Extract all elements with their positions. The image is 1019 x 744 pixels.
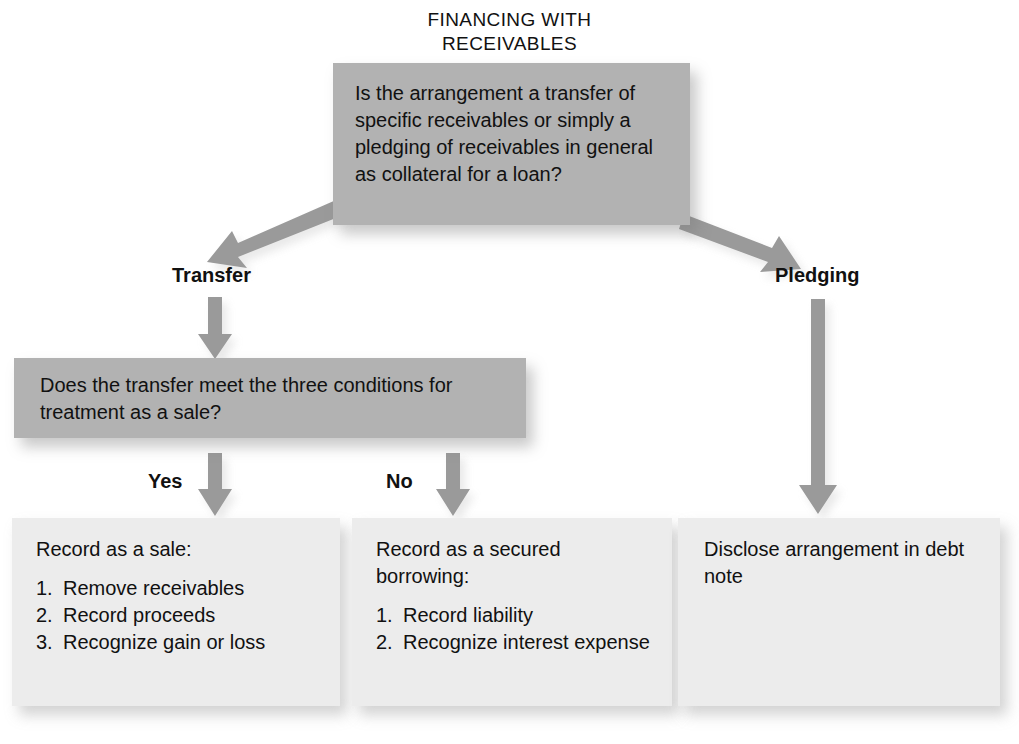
edge-label-yes: Yes <box>148 470 182 493</box>
list-item: 2. Record proceeds <box>36 602 326 629</box>
result-box-record-as-sale: Record as a sale: 1. Remove receivables … <box>12 518 340 706</box>
result-box-secured-borrowing-inner: Record as a secured borrowing: 1. Record… <box>376 536 658 694</box>
result-box-secured-borrowing: Record as a secured borrowing: 1. Record… <box>352 518 672 706</box>
edge-label-pledging: Pledging <box>775 264 859 287</box>
spacer <box>376 592 658 602</box>
edge-label-transfer: Transfer <box>172 264 251 287</box>
result-box-disclose-arrangement: Disclose arrangement in debt note <box>678 518 1000 706</box>
arrow-yes-down <box>198 453 232 516</box>
page-title: FINANCING WITH RECEIVABLES <box>0 8 1019 56</box>
decision-box-sale-conditions-inner: Does the transfer meet the three conditi… <box>40 372 510 428</box>
list-item-number: 2. <box>376 629 393 656</box>
arrow-no-down <box>436 453 470 516</box>
list-item: 1. Remove receivables <box>36 575 326 602</box>
arrow-pledging-down <box>799 299 837 514</box>
list-item-number: 1. <box>376 602 393 629</box>
list-item: 1. Record liability <box>376 602 658 629</box>
list-item-label: Recognize interest expense <box>403 631 650 653</box>
list-item-label: Recognize gain or loss <box>63 631 265 653</box>
arrow-transfer-down <box>198 297 232 359</box>
flowchart-canvas: FINANCING WITH RECEIVABLES <box>0 0 1019 744</box>
decision-box-arrangement-type-inner: Is the arrangement a transfer of specifi… <box>355 80 674 213</box>
edge-label-no: No <box>386 470 413 493</box>
arrow-to-transfer <box>207 200 341 268</box>
list-item-label: Remove receivables <box>63 577 244 599</box>
result-box-secured-borrowing-heading: Record as a secured borrowing: <box>376 536 658 590</box>
result-box-record-as-sale-heading: Record as a sale: <box>36 536 326 563</box>
result-box-record-as-sale-list: 1. Remove receivables 2. Record proceeds… <box>36 575 326 656</box>
list-item-number: 2. <box>36 602 53 629</box>
page-title-line-1: FINANCING WITH <box>0 8 1019 32</box>
page-title-line-2: RECEIVABLES <box>0 32 1019 56</box>
list-item: 3. Recognize gain or loss <box>36 629 326 656</box>
list-item-label: Record proceeds <box>63 604 215 626</box>
spacer <box>36 565 326 575</box>
result-box-disclose-arrangement-heading: Disclose arrangement in debt note <box>704 536 986 590</box>
result-box-record-as-sale-inner: Record as a sale: 1. Remove receivables … <box>36 536 326 694</box>
result-box-secured-borrowing-list: 1. Record liability 2. Recognize interes… <box>376 602 658 656</box>
result-box-disclose-arrangement-inner: Disclose arrangement in debt note <box>704 536 986 694</box>
decision-box-sale-conditions-text: Does the transfer meet the three conditi… <box>40 372 510 426</box>
list-item: 2. Recognize interest expense <box>376 629 658 656</box>
decision-box-arrangement-type: Is the arrangement a transfer of specifi… <box>333 63 690 225</box>
list-item-number: 1. <box>36 575 53 602</box>
list-item-number: 3. <box>36 629 53 656</box>
list-item-label: Record liability <box>403 604 533 626</box>
decision-box-sale-conditions: Does the transfer meet the three conditi… <box>14 358 526 438</box>
decision-box-arrangement-type-text: Is the arrangement a transfer of specifi… <box>355 80 674 188</box>
